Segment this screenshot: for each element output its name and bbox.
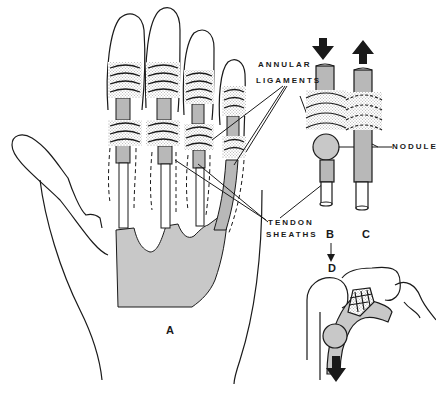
label-sheaths: SHEATHS [266,230,318,240]
finger-tendons [116,98,239,230]
label-ligaments: LIGAMENTS [256,76,321,86]
label-annular: ANNULAR [258,60,312,70]
panel-d-joint [307,267,436,382]
nodule-b [313,134,339,160]
nodule-d [323,324,347,348]
label-nodule: NODULE [392,142,438,152]
panel-label-b: B [326,228,334,240]
panel-label-c: C [362,228,370,240]
panel-label-a: A [166,324,174,336]
panel-b-tendon [306,38,346,206]
palm-shaded-area [116,210,228,307]
arrow-down-icon [312,38,334,60]
panel-label-d: D [328,262,336,274]
palm-left-edge [40,180,102,380]
thumb-outline [12,135,108,255]
arrow-up-icon [352,40,374,64]
label-tendon: TENDON [268,218,314,228]
arrow-down-small-icon [327,254,335,262]
panel-c-tendon [346,40,382,210]
palm-right-edge [234,190,262,384]
b-to-d-arrow [327,243,335,262]
